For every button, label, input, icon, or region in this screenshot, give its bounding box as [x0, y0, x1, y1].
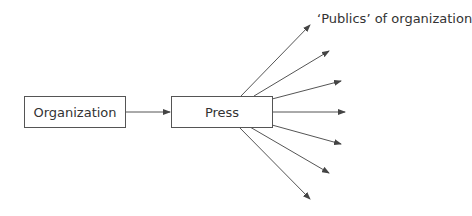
- organization-node: Organization: [24, 96, 126, 128]
- arrow-press-to-public-3: [272, 81, 341, 99]
- arrow-press-to-public-2: [254, 51, 329, 96]
- arrow-press-to-public-5: [272, 125, 341, 144]
- arrow-press-to-public-1: [241, 25, 310, 96]
- press-node-label: Press: [205, 105, 239, 120]
- publics-label: ‘Publics’ of organization: [317, 11, 472, 26]
- press-node: Press: [171, 96, 273, 128]
- arrow-press-to-public-7: [239, 127, 310, 199]
- organization-node-label: Organization: [33, 105, 116, 120]
